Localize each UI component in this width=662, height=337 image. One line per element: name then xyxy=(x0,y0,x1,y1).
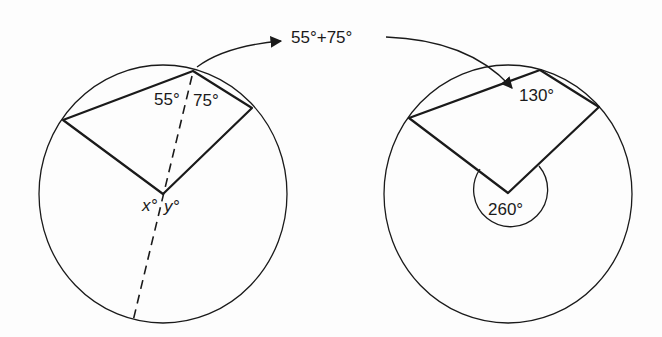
angle-label-130: 130° xyxy=(519,86,554,105)
sum-expression: 55°+75° xyxy=(291,28,352,47)
arrow-to-sum xyxy=(197,41,281,67)
angle-label-260: 260° xyxy=(488,200,523,219)
left-diagram: 55° 75° x° y° xyxy=(39,65,287,323)
angle-label-55: 55° xyxy=(154,90,180,109)
angle-label-x: x° xyxy=(141,196,158,215)
right-diagram: 130° 260° xyxy=(384,65,632,323)
transfer-annotation: 55°+75° xyxy=(197,28,512,88)
angle-label-75: 75° xyxy=(193,91,219,110)
circle-theorem-diagram: 55° 75° x° y° 55°+75° 130° 260° xyxy=(0,0,662,337)
angle-label-y: y° xyxy=(163,197,180,216)
